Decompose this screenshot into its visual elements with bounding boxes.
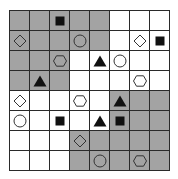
- cell-r1-c7[interactable]: [149, 30, 169, 50]
- cell-r5-c1[interactable]: [29, 110, 49, 130]
- cell-r4-c4[interactable]: [89, 90, 109, 110]
- cell-r0-c4[interactable]: [89, 10, 109, 30]
- cell-r3-c2[interactable]: [49, 70, 69, 90]
- cell-r1-c4[interactable]: [89, 30, 109, 50]
- cell-r3-c0[interactable]: [9, 70, 29, 90]
- cell-r3-c6[interactable]: [129, 70, 149, 90]
- square-icon: [55, 16, 65, 26]
- cell-r4-c3[interactable]: [69, 90, 89, 110]
- circle-icon: [93, 154, 107, 168]
- cell-r6-c4[interactable]: [89, 130, 109, 150]
- cell-r2-c1[interactable]: [29, 50, 49, 70]
- cell-r2-c4[interactable]: [89, 50, 109, 70]
- cell-r0-c6[interactable]: [129, 10, 149, 30]
- square-icon: [155, 36, 165, 46]
- cell-r3-c1[interactable]: [29, 70, 49, 90]
- cell-r3-c4[interactable]: [89, 70, 109, 90]
- cell-r1-c5[interactable]: [109, 30, 129, 50]
- cell-r7-c1[interactable]: [29, 150, 49, 170]
- cell-r7-c7[interactable]: [149, 150, 169, 170]
- cell-r0-c5[interactable]: [109, 10, 129, 30]
- triangle-icon: [93, 55, 107, 67]
- diamond-icon: [13, 94, 27, 108]
- cell-r1-c2[interactable]: [49, 30, 69, 50]
- cell-r6-c1[interactable]: [29, 130, 49, 150]
- triangle-icon: [33, 75, 47, 87]
- triangle-icon: [93, 115, 107, 127]
- cell-r2-c2[interactable]: [49, 50, 69, 70]
- cell-r2-c7[interactable]: [149, 50, 169, 70]
- hexagon-icon: [73, 95, 87, 107]
- cell-r7-c5[interactable]: [109, 150, 129, 170]
- cell-r5-c4[interactable]: [89, 110, 109, 130]
- cell-r6-c7[interactable]: [149, 130, 169, 150]
- cell-r7-c4[interactable]: [89, 150, 109, 170]
- cell-r7-c6[interactable]: [129, 150, 149, 170]
- cell-r1-c1[interactable]: [29, 30, 49, 50]
- cell-r7-c3[interactable]: [69, 150, 89, 170]
- cell-r3-c5[interactable]: [109, 70, 129, 90]
- circle-icon: [73, 34, 87, 48]
- cell-r4-c0[interactable]: [9, 90, 29, 110]
- square-icon: [55, 116, 65, 126]
- cell-r6-c5[interactable]: [109, 130, 129, 150]
- triangle-icon: [113, 95, 127, 107]
- cell-r0-c3[interactable]: [69, 10, 89, 30]
- cell-r7-c0[interactable]: [9, 150, 29, 170]
- cell-r5-c3[interactable]: [69, 110, 89, 130]
- cell-r4-c6[interactable]: [129, 90, 149, 110]
- square-icon: [115, 116, 125, 126]
- cell-r2-c0[interactable]: [9, 50, 29, 70]
- diamond-icon: [73, 134, 87, 148]
- cell-r2-c3[interactable]: [69, 50, 89, 70]
- cell-r1-c3[interactable]: [69, 30, 89, 50]
- cell-r4-c7[interactable]: [149, 90, 169, 110]
- circle-icon: [113, 54, 127, 68]
- cell-r7-c2[interactable]: [49, 150, 69, 170]
- cell-r0-c7[interactable]: [149, 10, 169, 30]
- cell-r6-c0[interactable]: [9, 130, 29, 150]
- circle-icon: [13, 114, 27, 128]
- game-board: [9, 10, 170, 171]
- cell-r1-c0[interactable]: [9, 30, 29, 50]
- diamond-icon: [133, 34, 147, 48]
- cell-r4-c5[interactable]: [109, 90, 129, 110]
- cell-r5-c2[interactable]: [49, 110, 69, 130]
- cell-r1-c6[interactable]: [129, 30, 149, 50]
- cell-r5-c7[interactable]: [149, 110, 169, 130]
- diamond-icon: [13, 34, 27, 48]
- cell-r5-c6[interactable]: [129, 110, 149, 130]
- cell-r6-c2[interactable]: [49, 130, 69, 150]
- cell-r3-c7[interactable]: [149, 70, 169, 90]
- hexagon-icon: [53, 55, 67, 67]
- cell-r4-c2[interactable]: [49, 90, 69, 110]
- hexagon-icon: [133, 75, 147, 87]
- cell-r2-c5[interactable]: [109, 50, 129, 70]
- cell-r6-c6[interactable]: [129, 130, 149, 150]
- cell-r2-c6[interactable]: [129, 50, 149, 70]
- cell-r0-c2[interactable]: [49, 10, 69, 30]
- cell-r6-c3[interactable]: [69, 130, 89, 150]
- hexagon-icon: [133, 155, 147, 167]
- cell-r3-c3[interactable]: [69, 70, 89, 90]
- cell-r0-c0[interactable]: [9, 10, 29, 30]
- cell-r0-c1[interactable]: [29, 10, 49, 30]
- cell-r5-c5[interactable]: [109, 110, 129, 130]
- cell-r5-c0[interactable]: [9, 110, 29, 130]
- cell-r4-c1[interactable]: [29, 90, 49, 110]
